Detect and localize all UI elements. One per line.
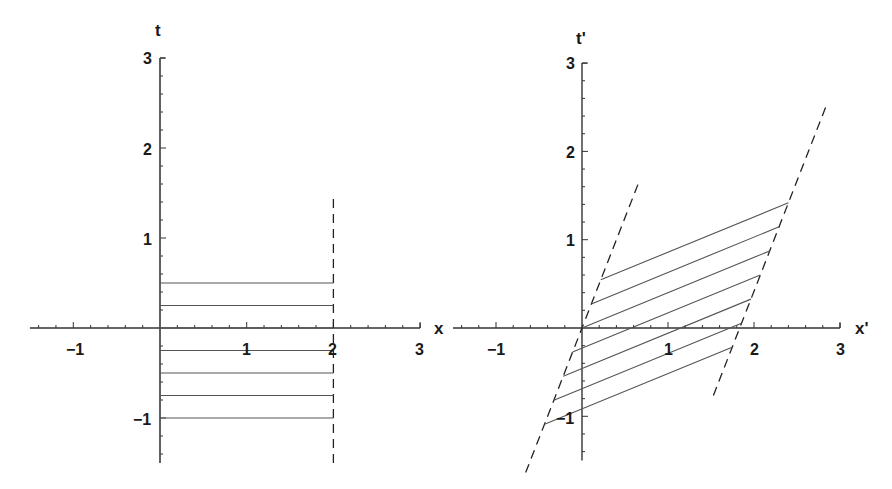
left-x-axis-label: x [434,319,444,338]
right-x-tick-neg1: −1 [487,341,505,358]
right-axes [453,63,840,460]
left-y-tick-1: 1 [143,231,152,248]
simultaneity-line [591,227,779,304]
simultaneity-line [563,299,751,376]
left-y-tick-neg1: −1 [133,411,151,428]
right-x-tick-3: 3 [836,341,845,358]
worldline-dashed [713,106,826,395]
left-x-tick-neg1: −1 [66,341,84,358]
simultaneity-line [601,203,789,280]
right-y-tick-3: 3 [566,55,575,72]
left-x-tick-2: 2 [328,341,337,358]
plots-canvas: t x −1 1 2 3 3 2 1 −1 t' x' −1 1 2 3 3 2… [0,0,892,489]
right-x-tick-2: 2 [750,341,759,358]
right-y-tick-2: 2 [566,144,575,161]
left-series [160,58,333,463]
figure: t x −1 1 2 3 3 2 1 −1 t' x' −1 1 2 3 3 2… [0,0,892,489]
right-y-tick-neg1: −1 [556,410,574,427]
simultaneity-line [582,251,770,328]
right-x-tick-1: 1 [664,341,673,358]
right-y-tick-1: 1 [566,232,575,249]
left-x-tick-1: 1 [242,341,251,358]
left-axes [30,58,420,463]
right-x-axis-label: x' [855,319,869,338]
left-y-axis-label: t [155,21,161,40]
left-y-tick-3: 3 [143,50,152,67]
right-y-axis-label: t' [576,29,586,48]
left-x-tick-3: 3 [415,341,424,358]
left-y-tick-2: 2 [143,141,152,158]
left-plot: t x −1 1 2 3 3 2 1 −1 [30,21,444,463]
right-plot: t' x' −1 1 2 3 3 2 1 −1 [453,29,869,473]
